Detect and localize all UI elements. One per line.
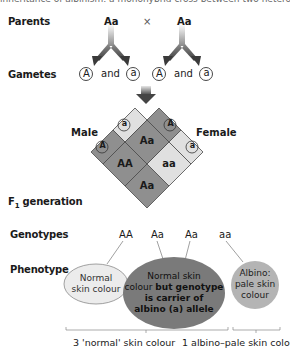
cell-top-genotype: Aa xyxy=(137,135,157,146)
ratio-normal-label: 3 'normal' skin colour xyxy=(73,337,175,348)
phenotype-normal-text: Normal skin colour xyxy=(64,273,128,295)
genotype-Aa-1: Aa xyxy=(151,229,164,240)
female-header-a: a xyxy=(188,141,197,150)
cell-right-genotype: aa xyxy=(159,158,179,169)
parent-right-genotype: Aa xyxy=(177,16,192,27)
gamete-left-A: A xyxy=(82,68,91,79)
gamete-right-and: and xyxy=(174,68,193,79)
split-arrow-right-icon xyxy=(163,24,201,66)
split-arrow-left-icon xyxy=(92,24,130,66)
punnett-square xyxy=(91,108,203,208)
ratio-albino-label: 1 albino–pale skin colour xyxy=(182,337,290,348)
phenotype-carrier-text: Normal skin colour but genotype is carri… xyxy=(124,271,224,315)
phenotype-label: Phenotype xyxy=(10,264,69,275)
female-header-A: A xyxy=(166,119,175,128)
phenotype-albino-text: Albino: pale skin colour xyxy=(231,268,279,301)
f1-generation-label: F1 generation xyxy=(8,196,82,210)
male-header-A: A xyxy=(98,141,107,150)
cell-bottom-genotype: Aa xyxy=(137,180,157,191)
genotypes-label: Genotypes xyxy=(10,229,68,240)
down-arrow-icon xyxy=(136,86,156,104)
female-label: Female xyxy=(196,127,237,138)
gamete-left-a: a xyxy=(129,67,138,78)
genotype-Aa-2: Aa xyxy=(185,229,198,240)
gametes-label: Gametes xyxy=(8,69,56,80)
male-header-a: a xyxy=(120,119,129,128)
cross-symbol: × xyxy=(143,16,151,27)
parents-label: Parents xyxy=(8,16,50,27)
gamete-left-and: and xyxy=(101,68,120,79)
genotype-AA: AA xyxy=(119,229,133,240)
male-label: Male xyxy=(71,127,98,138)
parent-left-genotype: Aa xyxy=(104,16,119,27)
gamete-right-a: a xyxy=(202,67,211,78)
gamete-right-A: A xyxy=(155,68,164,79)
genotype-aa: aa xyxy=(219,229,231,240)
cell-left-genotype: AA xyxy=(115,158,135,169)
